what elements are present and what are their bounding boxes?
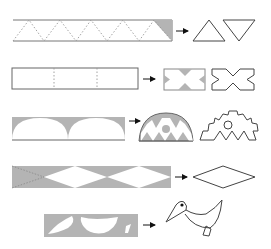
row-1 <box>13 20 255 41</box>
strip-bird-parts <box>44 214 138 237</box>
notched-rectangle-shaded <box>164 69 205 90</box>
row-5 <box>44 200 222 237</box>
strip-panels <box>12 68 138 89</box>
triangle-down <box>223 20 255 41</box>
gear-outline-with-circle <box>200 111 258 140</box>
bird-outline <box>166 200 222 236</box>
row-4 <box>12 166 255 188</box>
triangle-up <box>193 20 225 41</box>
semicircle-with-triangles <box>139 113 193 141</box>
row-3 <box>12 111 258 141</box>
strip-zigzag <box>13 20 172 41</box>
strip-semicircles <box>12 117 125 140</box>
x-shape-outline <box>212 69 254 90</box>
diagram-canvas <box>0 0 271 249</box>
strip-diamonds <box>12 166 171 188</box>
row-2 <box>12 68 254 90</box>
diamond-outline <box>193 166 255 188</box>
